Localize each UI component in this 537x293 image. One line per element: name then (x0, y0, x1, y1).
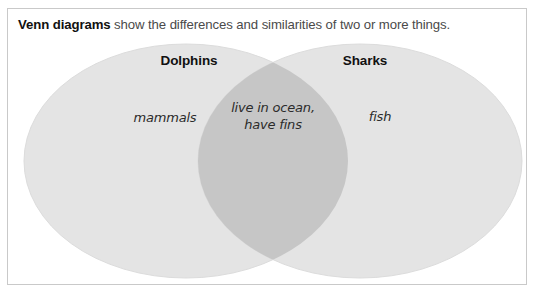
left-set-title: Dolphins (129, 53, 249, 68)
caption-lead-term: Venn diagrams (18, 17, 111, 32)
figure-frame (7, 8, 527, 285)
caption-description: show the differences and similarities of… (111, 17, 451, 32)
intersection-line-1: live in ocean, (231, 100, 315, 115)
intersection-items: live in ocean, have fins (213, 99, 333, 133)
right-set-title: Sharks (305, 53, 425, 68)
left-set-unique-items: mammals (105, 110, 225, 125)
figure-caption: Venn diagrams show the differences and s… (18, 16, 518, 33)
venn-diagram-figure: Venn diagrams show the differences and s… (0, 0, 537, 293)
right-set-unique-items: fish (320, 109, 440, 124)
intersection-line-2: have fins (213, 116, 333, 133)
